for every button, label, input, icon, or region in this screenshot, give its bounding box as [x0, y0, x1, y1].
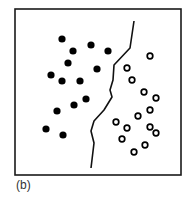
- filled-dot: [104, 47, 111, 54]
- hollow-circle: [131, 149, 137, 155]
- hollow-circle: [153, 130, 159, 136]
- hollow-circle: [153, 95, 159, 101]
- hollow-circle: [147, 107, 153, 113]
- filled-dot: [58, 35, 65, 42]
- hollow-circle: [124, 65, 130, 71]
- filled-dot: [58, 77, 65, 84]
- hollow-circle: [113, 119, 119, 125]
- class-b-hollow-circles: [113, 53, 159, 155]
- decision-boundary-line: [91, 21, 134, 168]
- filled-dot: [93, 65, 100, 72]
- filled-dot: [64, 59, 71, 66]
- hollow-circle: [147, 124, 153, 130]
- class-a-filled-dots: [42, 35, 111, 138]
- hollow-circle: [142, 142, 148, 148]
- filled-dot: [59, 131, 66, 138]
- figure-caption: (b): [16, 178, 31, 192]
- filled-dot: [42, 125, 49, 132]
- filled-dot: [82, 95, 89, 102]
- filled-dot: [87, 41, 94, 48]
- hollow-circle: [124, 125, 130, 131]
- hollow-circle: [141, 89, 147, 95]
- filled-dot: [70, 101, 77, 108]
- filled-dot: [53, 107, 60, 114]
- filled-dot: [69, 47, 76, 54]
- filled-dot: [47, 71, 54, 78]
- hollow-circle: [135, 113, 141, 119]
- hollow-circle: [147, 53, 153, 59]
- classification-diagram: [0, 0, 189, 204]
- hollow-circle: [129, 77, 135, 83]
- hollow-circle: [119, 136, 125, 142]
- plot-frame: [15, 9, 181, 175]
- filled-dot: [76, 77, 83, 84]
